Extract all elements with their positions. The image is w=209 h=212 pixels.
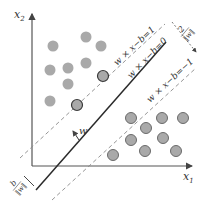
class-a-point xyxy=(63,63,74,74)
class-a-point xyxy=(63,79,74,90)
class-a-point xyxy=(48,41,59,52)
support-vectors xyxy=(72,71,109,111)
normal-vector-label: w xyxy=(79,125,88,136)
class-a-point xyxy=(81,58,92,69)
support-vector-point xyxy=(72,100,83,111)
class-a-point xyxy=(45,96,56,107)
lower-margin-line xyxy=(52,68,196,200)
margin-width-label: 2 ‖w‖ xyxy=(174,21,196,43)
class-b-point xyxy=(126,135,137,146)
class-b-point xyxy=(108,150,119,161)
class-b-point xyxy=(158,133,169,144)
support-vector-point xyxy=(98,71,109,82)
class-a-point xyxy=(81,32,92,43)
class-b-point xyxy=(157,113,168,124)
svm-diagram: x2 x1 w × x−b=1 w × x−b=0 w × x−b=−1 w 2… xyxy=(0,0,209,212)
class-a-points xyxy=(45,32,107,107)
offset-tick xyxy=(24,176,34,186)
class-b-points xyxy=(108,113,189,161)
y-axis-label: x2 xyxy=(14,8,25,23)
class-a-point xyxy=(96,41,107,52)
class-a-point xyxy=(45,65,56,76)
lower-margin-label: w × x−b=−1 xyxy=(145,56,196,104)
x-axis-label: x1 xyxy=(183,170,194,185)
offset-label: b ‖w‖ xyxy=(6,175,28,197)
class-b-point xyxy=(140,146,151,157)
class-b-point xyxy=(141,123,152,134)
class-b-point xyxy=(171,146,182,157)
class-b-point xyxy=(178,113,189,124)
class-b-point xyxy=(126,113,137,124)
